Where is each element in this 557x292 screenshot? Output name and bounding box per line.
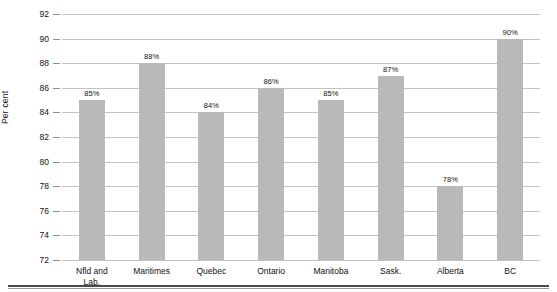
bar [437, 186, 463, 260]
bar-value-label: 85% [68, 90, 116, 98]
y-axis-tick-mark [53, 186, 60, 187]
bar-value-label: 90% [486, 29, 534, 37]
gridline [62, 211, 540, 212]
bottom-rule-shadow [8, 288, 549, 289]
bar-value-label: 87% [367, 66, 415, 74]
y-axis-tick-mark [53, 88, 60, 89]
y-axis-tick-label: 80 [25, 158, 49, 167]
y-axis-tick-mark [53, 14, 60, 15]
y-axis-tick-mark [53, 39, 60, 40]
y-axis-tick-label: 84 [25, 108, 49, 117]
y-axis-tick-label: 88 [25, 59, 49, 68]
y-axis-tick-mark [53, 137, 60, 138]
y-axis-tick-mark [53, 112, 60, 113]
gridline [62, 186, 540, 187]
y-axis-tick-mark [53, 63, 60, 64]
y-axis-tick-label: 72 [25, 256, 49, 265]
bar [318, 100, 344, 260]
bar-value-label: 85% [307, 90, 355, 98]
bar [378, 76, 404, 261]
gridline [62, 260, 540, 261]
y-axis-tick-label: 74 [25, 231, 49, 240]
bar-value-label: 78% [426, 176, 474, 184]
gridline [62, 14, 540, 15]
gridline [62, 137, 540, 138]
y-axis-tick-label: 92 [25, 10, 49, 19]
y-axis-tick-label: 90 [25, 35, 49, 44]
gridline [62, 88, 540, 89]
gridline [62, 235, 540, 236]
plot-area [62, 14, 540, 260]
y-axis-tick-label: 86 [25, 84, 49, 93]
bar [198, 112, 224, 260]
y-axis-tick-mark [53, 235, 60, 236]
y-axis-tick-mark [53, 211, 60, 212]
bar [79, 100, 105, 260]
x-axis-category-label: BC [474, 266, 546, 277]
gridline [62, 112, 540, 113]
y-axis-tick-label: 76 [25, 207, 49, 216]
gridline [62, 63, 540, 64]
gridline [62, 39, 540, 40]
bar [497, 39, 523, 260]
bar-value-label: 86% [247, 78, 295, 86]
gridline [62, 162, 540, 163]
y-axis-tick-mark [53, 260, 60, 261]
bar [139, 63, 165, 260]
bar [258, 88, 284, 260]
bar-value-label: 84% [187, 102, 235, 110]
bar-value-label: 88% [128, 53, 176, 61]
bar-chart-figure: Per cent 727476788082848688909285%Nfld a… [0, 0, 557, 292]
y-axis-tick-label: 78 [25, 182, 49, 191]
y-axis-tick-label: 82 [25, 133, 49, 142]
y-axis-tick-mark [53, 162, 60, 163]
